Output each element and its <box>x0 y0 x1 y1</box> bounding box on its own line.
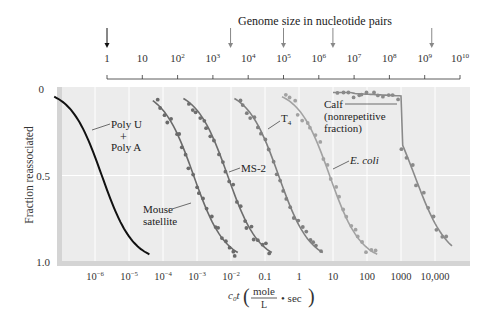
data-point <box>231 250 235 254</box>
genome-arrow-icon <box>330 28 335 48</box>
data-point <box>278 179 282 183</box>
data-point <box>370 248 374 252</box>
data-point <box>177 132 181 136</box>
data-point <box>281 189 285 193</box>
label-mouse: Mouse <box>143 203 173 215</box>
data-point <box>405 156 409 160</box>
data-point <box>391 93 395 97</box>
data-point <box>275 172 279 176</box>
genome-axis-title: Genome size in nucleotide pairs <box>238 14 392 28</box>
tick-label: 109 <box>417 52 432 64</box>
data-point <box>194 110 198 114</box>
data-point <box>440 235 444 239</box>
data-point <box>288 205 292 209</box>
data-point <box>360 93 364 97</box>
data-point <box>184 153 188 157</box>
data-point <box>422 191 426 195</box>
tick-label: 108 <box>382 52 397 64</box>
label-calf: Calf <box>324 98 343 110</box>
tick-label: 1 <box>296 271 301 282</box>
tick-label: 1000 <box>391 271 412 282</box>
data-point <box>342 91 346 95</box>
data-point <box>191 173 195 177</box>
data-point <box>414 184 418 188</box>
data-point <box>267 148 271 152</box>
data-point <box>444 235 448 239</box>
data-point <box>259 132 263 136</box>
data-point <box>344 215 348 219</box>
data-point <box>245 226 249 230</box>
data-point <box>204 126 208 130</box>
data-point <box>318 140 322 144</box>
data-point <box>195 185 199 189</box>
tick-label: 10 <box>137 52 149 64</box>
data-point <box>187 166 191 170</box>
data-point <box>241 103 245 107</box>
tick-label: 10 <box>328 271 339 282</box>
data-point <box>304 230 308 234</box>
data-point <box>210 215 214 219</box>
data-point <box>296 113 300 117</box>
data-point <box>426 206 430 210</box>
tick-label: 10,000 <box>421 271 450 282</box>
data-point <box>235 200 239 204</box>
data-point <box>326 163 330 167</box>
data-point <box>239 99 243 103</box>
data-point <box>322 157 326 161</box>
label-fraction: fraction) <box>324 122 362 135</box>
tick-label: 100 <box>359 271 375 282</box>
data-point <box>364 250 368 254</box>
label-poly-u: Poly U <box>111 118 142 130</box>
data-point <box>314 133 318 137</box>
data-point <box>231 183 235 187</box>
data-point <box>264 138 268 142</box>
data-point <box>411 163 415 167</box>
data-point <box>202 119 206 123</box>
svg-text:mole: mole <box>253 285 275 297</box>
data-point <box>396 98 400 102</box>
data-point <box>198 116 202 120</box>
data-point <box>352 96 356 100</box>
data-point <box>158 106 162 110</box>
genome-arrow-icon <box>429 28 434 48</box>
genome-arrow-icon <box>228 28 233 48</box>
y-tick-0.5: 0.5 <box>36 170 50 182</box>
data-point <box>387 93 391 97</box>
data-point <box>354 228 358 232</box>
data-point <box>308 126 312 130</box>
data-point <box>216 226 220 230</box>
tick-label: 10−4 <box>154 270 172 282</box>
data-point <box>329 177 333 181</box>
data-point <box>288 96 292 100</box>
y-axis-title: Fraction reassociated <box>23 126 35 224</box>
svg-text:): ) <box>308 285 315 308</box>
tick-label: 107 <box>347 52 362 64</box>
data-point <box>245 111 249 115</box>
data-point <box>156 98 160 102</box>
data-point <box>306 121 310 125</box>
data-point <box>165 121 169 125</box>
tick-label: 1010 <box>451 52 470 64</box>
data-point <box>227 180 231 184</box>
tick-label: 10−2 <box>222 270 240 282</box>
data-point <box>248 116 252 120</box>
data-point <box>261 243 265 247</box>
plot-panel <box>54 87 470 266</box>
tick-label: 10−5 <box>120 270 138 282</box>
data-point <box>228 246 232 250</box>
data-point <box>374 249 378 253</box>
data-point <box>180 145 184 149</box>
data-point <box>212 139 216 143</box>
tick-label: 1 <box>104 52 110 64</box>
data-point <box>217 153 221 157</box>
label-ecoli: E. coli <box>349 154 379 166</box>
data-point <box>163 113 167 117</box>
data-point <box>233 254 237 258</box>
data-point <box>224 239 228 243</box>
data-point <box>435 228 439 232</box>
tick-label: 102 <box>170 52 185 64</box>
data-point <box>301 225 305 229</box>
tick-label: 105 <box>276 52 291 64</box>
label-poly-a: Poly A <box>111 141 141 153</box>
label-ms2: MS-2 <box>241 162 266 174</box>
